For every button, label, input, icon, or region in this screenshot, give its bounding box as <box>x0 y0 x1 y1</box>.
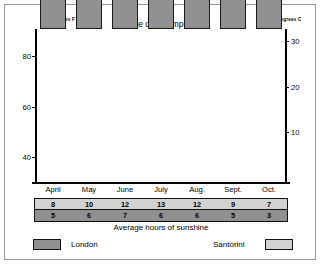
bar-aug <box>184 29 210 183</box>
month-label-april: April <box>36 185 70 194</box>
table-row-london: 5676653 <box>35 210 287 221</box>
left-tick-label-40: 40 <box>1 153 31 162</box>
right-tick-label-20: 20 <box>291 83 321 92</box>
left-tick-60 <box>32 107 36 108</box>
month-label-may: May <box>72 185 106 194</box>
bar-segment-london <box>76 0 102 29</box>
legend-swatch-london <box>33 239 61 250</box>
legend-label-santorini: Santorini <box>213 240 245 249</box>
table-caption: Average hours of sunshine <box>5 223 317 232</box>
sunshine-table: 81012131297 5676653 <box>34 198 288 222</box>
month-label-june: June <box>108 185 142 194</box>
right-tick-label-30: 30 <box>291 37 321 46</box>
left-tick-label-60: 60 <box>1 103 31 112</box>
plot-area: 806040 302010 <box>35 29 287 183</box>
table-cell-london-april: 5 <box>36 211 70 220</box>
table-cell-santorini-june: 12 <box>108 200 142 209</box>
bar-june <box>112 29 138 183</box>
bar-sept <box>220 29 246 183</box>
bar-oct <box>256 29 282 183</box>
table-cell-santorini-july: 13 <box>144 200 178 209</box>
chart-legend: London Santorini <box>5 238 317 254</box>
right-tick-30 <box>285 41 289 42</box>
month-label-july: July <box>144 185 178 194</box>
month-label-oct: Oct. <box>252 185 286 194</box>
table-cell-london-oct: 3 <box>252 211 286 220</box>
table-cell-london-may: 6 <box>72 211 106 220</box>
table-row-santorini: 81012131297 <box>35 199 287 210</box>
bar-segment-london <box>40 0 66 29</box>
bar-segment-london <box>112 0 138 29</box>
bar-may <box>76 29 102 183</box>
right-tick-label-10: 10 <box>291 128 321 137</box>
month-label-aug: Aug. <box>180 185 214 194</box>
table-cell-london-july: 6 <box>144 211 178 220</box>
table-cell-santorini-may: 10 <box>72 200 106 209</box>
right-tick-10 <box>285 132 289 133</box>
month-label-sept: Sept. <box>216 185 250 194</box>
right-tick-20 <box>285 87 289 88</box>
table-cell-london-june: 7 <box>108 211 142 220</box>
legend-swatch-santorini <box>265 239 293 250</box>
left-axis-line <box>35 29 37 183</box>
left-tick-80 <box>32 56 36 57</box>
left-tick-40 <box>32 157 36 158</box>
right-axis-line <box>285 29 287 183</box>
table-cell-london-aug: 6 <box>180 211 214 220</box>
month-labels: AprilMayJuneJulyAug.Sept.Oct. <box>35 185 287 197</box>
table-cell-santorini-sept: 9 <box>216 200 250 209</box>
legend-label-london: London <box>71 240 98 249</box>
bar-july <box>148 29 174 183</box>
table-cell-santorini-aug: 12 <box>180 200 214 209</box>
table-cell-london-sept: 5 <box>216 211 250 220</box>
chart-figure: Degrees F Degrees C Average daily temper… <box>4 4 316 260</box>
bar-segment-london <box>184 0 210 29</box>
bar-april <box>40 29 66 183</box>
left-tick-label-80: 80 <box>1 52 31 61</box>
bar-segment-london <box>148 0 174 29</box>
bar-segment-london <box>220 0 246 29</box>
bar-segment-london <box>256 0 282 29</box>
table-cell-santorini-april: 8 <box>36 200 70 209</box>
table-cell-santorini-oct: 7 <box>252 200 286 209</box>
